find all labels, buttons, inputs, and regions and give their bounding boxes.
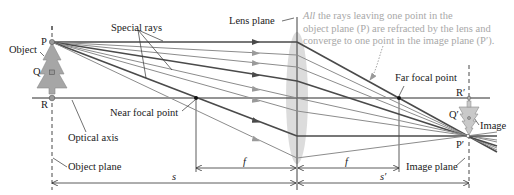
label-near-focal-point: Near focal point bbox=[110, 108, 178, 119]
near-focal-pointer bbox=[182, 100, 195, 111]
rays-image-side bbox=[297, 42, 497, 158]
label-f-right: f bbox=[345, 157, 348, 168]
far-focal-point-marker bbox=[397, 96, 401, 100]
annotation-line-2: object plane (P) are refracted by the le… bbox=[303, 23, 494, 36]
label-r: R bbox=[41, 100, 48, 111]
annotation-line-3: converge to one point in the image plane… bbox=[303, 35, 494, 48]
optical-axis-pointer bbox=[72, 100, 86, 132]
lens-ray-diagram: Special rays Lens plane P Object Q R Nea… bbox=[0, 0, 514, 195]
image-trunk bbox=[467, 101, 471, 107]
label-lens-plane: Lens plane bbox=[229, 16, 275, 27]
label-r-prime: R′ bbox=[456, 88, 465, 99]
image-tree bbox=[459, 107, 479, 135]
annotation-arrow bbox=[370, 46, 383, 80]
label-s-prime: s′ bbox=[380, 172, 386, 183]
point-r-marker bbox=[49, 95, 55, 101]
point-q-marker bbox=[50, 70, 55, 75]
label-optical-axis: Optical axis bbox=[68, 133, 118, 144]
label-q-prime: Q′ bbox=[449, 110, 459, 121]
point-r-prime-marker bbox=[467, 96, 471, 100]
annotation-text: All the rays leaving one point in the ob… bbox=[303, 10, 494, 48]
label-q: Q bbox=[33, 67, 41, 78]
point-p-marker bbox=[49, 39, 54, 44]
lens-plane-pointer bbox=[282, 18, 294, 21]
near-focal-point-marker bbox=[194, 96, 198, 100]
annotation-emphasis: All bbox=[303, 10, 315, 21]
object-tree bbox=[37, 43, 67, 94]
annotation-line-1: All the rays leaving one point in the bbox=[303, 10, 494, 23]
label-image: Image bbox=[480, 121, 506, 132]
label-p-prime: P′ bbox=[456, 140, 464, 151]
label-object: Object bbox=[9, 45, 37, 56]
label-object-plane: Object plane bbox=[68, 162, 121, 173]
point-p-prime-marker bbox=[466, 134, 469, 137]
label-special-rays: Special rays bbox=[111, 23, 162, 34]
label-image-plane: Image plane bbox=[406, 162, 458, 173]
annotation-line-1-rest: the rays leaving one point in the bbox=[315, 10, 452, 21]
far-focal-pointer bbox=[399, 86, 404, 96]
ray-arrowheads bbox=[250, 42, 259, 141]
label-f-left: f bbox=[243, 157, 246, 168]
label-s: s bbox=[172, 172, 176, 183]
object-plane-pointer bbox=[53, 158, 67, 167]
object-label-pointer bbox=[40, 52, 44, 56]
label-far-focal-point: Far focal point bbox=[395, 73, 457, 84]
point-q-prime-marker bbox=[468, 117, 471, 120]
label-p: P bbox=[41, 37, 47, 48]
